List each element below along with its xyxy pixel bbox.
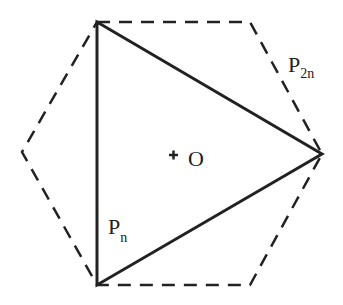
polygon-diagram: P2n Pn O [0, 0, 343, 305]
label-p2n-sub: 2n [300, 66, 314, 81]
label-pn: Pn [108, 214, 127, 245]
label-center-o: O [188, 146, 204, 171]
label-p2n-main: P [288, 52, 300, 77]
label-pn-main: P [108, 214, 120, 239]
center-marker-icon [169, 151, 178, 160]
label-p2n: P2n [288, 52, 314, 81]
hexagon-p2n [22, 22, 322, 285]
label-pn-sub: n [120, 230, 127, 245]
